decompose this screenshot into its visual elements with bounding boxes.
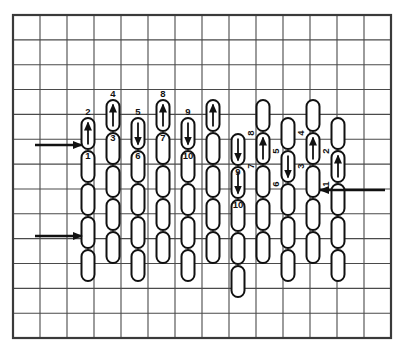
domain-capsule <box>307 199 320 230</box>
domain-capsule <box>332 217 345 248</box>
domain-capsule <box>282 118 295 149</box>
capsule-number-label: 8 <box>160 88 165 99</box>
domain-capsule <box>157 232 170 263</box>
domain-capsule <box>207 133 220 164</box>
domain-capsule <box>282 184 295 215</box>
capsule-number-label: 3 <box>295 163 306 168</box>
domain-capsule <box>182 184 195 215</box>
diagram-svg: 2143568791091087564321 <box>0 0 400 349</box>
domain-capsule <box>132 250 145 281</box>
domain-capsule <box>332 184 345 215</box>
domain-capsule <box>307 100 320 131</box>
capsule-number-label: 7 <box>160 132 165 143</box>
capsule-number-label: 8 <box>245 130 256 135</box>
domain-capsule <box>132 184 145 215</box>
domain-capsule <box>107 199 120 230</box>
capsule-number-label: 7 <box>245 163 256 168</box>
capsule-number-label: 5 <box>135 106 141 117</box>
capsule-number-label: 1 <box>320 181 331 187</box>
domain-capsule <box>307 166 320 197</box>
domain-capsule <box>282 250 295 281</box>
capsule-number-label: 9 <box>235 166 240 177</box>
capsule-number-label: 6 <box>270 181 281 186</box>
domain-capsule <box>282 217 295 248</box>
figure-canvas: 2143568791091087564321 <box>0 0 400 349</box>
capsule-number-label: 2 <box>85 106 90 117</box>
capsule-number-label: 9 <box>185 106 190 117</box>
domain-capsule <box>232 233 245 264</box>
domain-capsule <box>307 232 320 263</box>
domain-capsule <box>157 166 170 197</box>
domain-capsule <box>157 199 170 230</box>
domain-capsule <box>207 166 220 197</box>
domain-capsule <box>257 100 270 131</box>
capsule-number-label: 3 <box>110 132 115 143</box>
capsule-number-label: 10 <box>233 199 244 210</box>
domain-capsule <box>207 199 220 230</box>
capsule-number-label: 1 <box>85 150 91 161</box>
domain-capsule <box>332 250 345 281</box>
domain-capsule <box>107 166 120 197</box>
domain-capsule <box>82 217 95 248</box>
capsule-number-label: 4 <box>110 88 116 99</box>
domain-capsule <box>332 118 345 149</box>
domain-capsule <box>82 184 95 215</box>
domain-capsule <box>257 199 270 230</box>
domain-capsule <box>107 232 120 263</box>
capsule-number-label: 5 <box>270 148 281 154</box>
domain-capsule <box>182 217 195 248</box>
domain-capsule <box>182 250 195 281</box>
domain-capsule <box>207 232 220 263</box>
domain-capsule <box>257 232 270 263</box>
capsule-number-label: 2 <box>320 148 331 153</box>
domain-capsule <box>232 266 245 297</box>
capsule-number-label: 6 <box>135 150 140 161</box>
domain-capsule <box>257 166 270 197</box>
capsule-number-label: 4 <box>295 130 306 136</box>
capsule-number-label: 10 <box>183 150 194 161</box>
domain-capsule <box>132 217 145 248</box>
domain-capsule <box>82 250 95 281</box>
